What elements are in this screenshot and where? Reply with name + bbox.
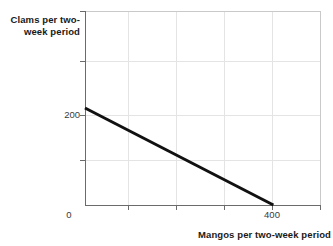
chart-figure: Clams per two-week period Mangos per two… <box>0 0 333 246</box>
horizontal-gridlines <box>85 62 321 161</box>
data-line-budget-constraint <box>85 108 273 205</box>
plot-frame <box>85 11 321 205</box>
plot-area <box>0 0 333 246</box>
axis-lines <box>85 11 321 206</box>
vertical-gridlines <box>129 11 273 205</box>
y-axis-ticks <box>80 12 85 161</box>
